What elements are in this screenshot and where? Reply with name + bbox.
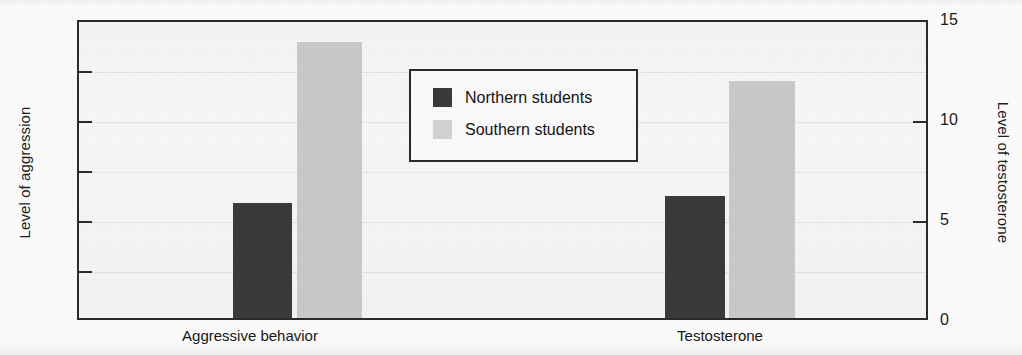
y-right-tick-label-0: 0 [940, 312, 1000, 328]
legend-entry-northern: Northern students [433, 88, 592, 107]
legend-entry-southern: Southern students [433, 120, 595, 139]
legend-label-southern: Southern students [465, 121, 595, 139]
legend-label-northern: Northern students [465, 89, 592, 107]
y-right-tick-5 [913, 221, 926, 223]
legend-swatch-icon-southern [433, 120, 452, 139]
y-axis-left-title: Level of aggression [16, 63, 33, 283]
y-left-tick-45 [79, 171, 92, 173]
gridline-15 [79, 272, 926, 273]
gridline-45 [79, 172, 926, 173]
y-left-tick-30 [79, 221, 92, 223]
x-axis-tick-label-testosterone: Testosterone [620, 327, 820, 344]
y-left-tick-15 [79, 271, 92, 273]
scan-artifact-bottom [0, 343, 1022, 355]
y-right-tick-label-5: 5 [940, 212, 1000, 228]
y-right-tick-label-15: 15 [940, 12, 1000, 28]
chart-legend: Northern students Southern students [409, 69, 638, 162]
y-axis-right-title: Level of testosterone [995, 63, 1012, 283]
plot-area [77, 20, 928, 320]
plot-background-wash [79, 22, 926, 318]
gridline-30 [79, 222, 926, 223]
x-axis-tick-label-aggressive-behavior: Aggressive behavior [145, 327, 355, 344]
y-right-tick-label-10: 10 [940, 112, 1000, 128]
bar-northern-aggressive-behavior [233, 203, 292, 318]
bar-southern-aggressive-behavior [297, 42, 362, 318]
y-left-tick-60 [79, 121, 92, 123]
bar-northern-testosterone [665, 196, 725, 318]
legend-swatch-icon-northern [433, 88, 452, 107]
chart-figure: Level of aggression Level of testosteron… [0, 0, 1022, 355]
scan-artifact-top [0, 0, 1022, 7]
bar-southern-testosterone [729, 81, 795, 318]
y-right-tick-10 [913, 121, 926, 123]
y-left-tick-75 [79, 71, 92, 73]
